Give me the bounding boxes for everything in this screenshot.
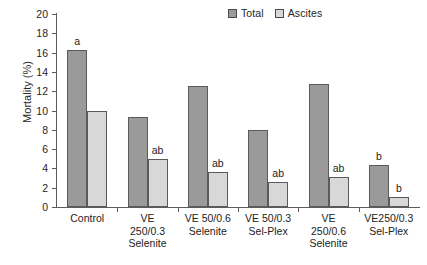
bar-ascites[interactable] — [208, 172, 228, 207]
x-axis-category-label: VE 50/0.6Selenite — [185, 212, 231, 237]
y-axis-tick-label: 8 — [0, 124, 48, 136]
x-axis-category-label-line: VE 50/0.3 — [245, 212, 291, 225]
x-axis-category-label: VE250/0.3Selenite — [129, 212, 167, 250]
x-axis-category-label-line: VE — [129, 212, 167, 225]
x-axis-category-label: VE250/0.6Selenite — [310, 212, 348, 250]
x-axis-labels: ControlVE250/0.3SeleniteVE 50/0.6Selenit… — [57, 212, 419, 264]
x-axis-category-label-line: VE250/0.3 — [364, 212, 413, 225]
bar-annotation: ab — [152, 144, 164, 156]
bar-ascites[interactable] — [87, 111, 107, 208]
x-axis-category-label: VE250/0.3Sel-Plex — [364, 212, 413, 237]
bar-total[interactable] — [67, 50, 87, 207]
bar-ascites[interactable] — [329, 177, 349, 207]
y-axis-tick — [52, 207, 57, 208]
x-axis-category-label: Control — [70, 212, 104, 225]
y-axis-tick-label: 4 — [0, 162, 48, 174]
x-axis-category-label-line: VE 50/0.6 — [185, 212, 231, 225]
x-axis-category-label-line: VE — [310, 212, 348, 225]
x-axis-category-label: VE 50/0.3Sel-Plex — [245, 212, 291, 237]
bar-total[interactable] — [309, 84, 329, 207]
x-axis-category-label-line: Selenite — [129, 237, 167, 250]
y-axis-tick-label: 10 — [0, 105, 48, 117]
x-axis-category-label-line: 250/0.6 — [310, 225, 348, 238]
x-axis-category-label-line: Selenite — [310, 237, 348, 250]
bar-ascites[interactable] — [268, 182, 288, 207]
bar-annotation: b — [376, 150, 382, 162]
y-axis-tick-label: 20 — [0, 8, 48, 20]
bar-total[interactable] — [248, 130, 268, 207]
bar-total[interactable] — [128, 117, 148, 207]
bar-total[interactable] — [369, 165, 389, 207]
bar-annotation: ab — [333, 162, 345, 174]
y-axis-tick-label: 2 — [0, 182, 48, 194]
y-axis-tick-label: 14 — [0, 66, 48, 78]
y-axis-tick-label: 6 — [0, 143, 48, 155]
x-axis-category-label-line: Control — [70, 212, 104, 225]
y-axis-tick-label: 0 — [0, 201, 48, 213]
bar-ascites[interactable] — [389, 197, 409, 207]
x-axis-category-label-line: Sel-Plex — [364, 225, 413, 238]
y-axis-tick-label: 16 — [0, 47, 48, 59]
y-axis-tick-label: 12 — [0, 85, 48, 97]
y-axis-tick-label: 18 — [0, 27, 48, 39]
bar-annotation: ab — [212, 157, 224, 169]
bar-annotation: b — [396, 182, 402, 194]
mortality-bar-chart: Total Ascites Mortality (%) 024681012141… — [0, 0, 427, 265]
bar-total[interactable] — [188, 86, 208, 207]
bar-annotation: ab — [272, 167, 284, 179]
bar-annotation: a — [74, 35, 80, 47]
bar-ascites[interactable] — [148, 159, 168, 207]
x-axis-category-label-line: 250/0.3 — [129, 225, 167, 238]
x-axis-category-label-line: Sel-Plex — [245, 225, 291, 238]
x-axis-category-label-line: Selenite — [185, 225, 231, 238]
plot-area: aababababbb — [57, 14, 419, 207]
